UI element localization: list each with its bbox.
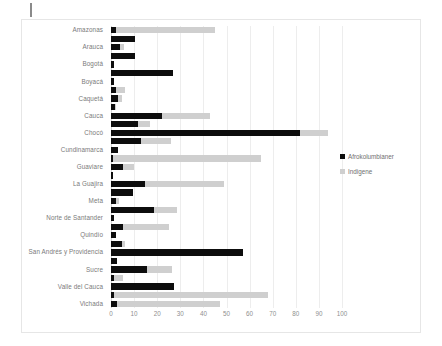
bar-segment-afrokolumbianer bbox=[111, 301, 117, 307]
bar-segment-afrokolumbianer bbox=[111, 61, 114, 67]
bar-row bbox=[111, 26, 342, 35]
x-tick-label-70: 70 bbox=[269, 310, 276, 317]
bar-row bbox=[111, 248, 342, 257]
y-tick-label: Guaviare bbox=[77, 163, 103, 171]
plot-area bbox=[111, 26, 342, 308]
x-tick-label-100: 100 bbox=[337, 310, 348, 317]
bar-row bbox=[111, 69, 342, 78]
bar-segment-afrokolumbianer bbox=[111, 283, 174, 289]
bar-row bbox=[111, 60, 342, 69]
bar-row bbox=[111, 171, 342, 180]
bar-row bbox=[111, 188, 342, 197]
bar-segment-afrokolumbianer bbox=[111, 198, 116, 204]
bar-row bbox=[111, 43, 342, 52]
bar-row bbox=[111, 52, 342, 61]
bar-segment-afrokolumbianer bbox=[111, 95, 118, 101]
bar-row bbox=[111, 282, 342, 291]
x-tick-label-0: 0 bbox=[109, 310, 113, 317]
bar-row bbox=[111, 299, 342, 308]
bar-row bbox=[111, 94, 342, 103]
y-tick-label: Boyacá bbox=[81, 78, 103, 86]
bar-segment-afrokolumbianer bbox=[111, 232, 116, 238]
bar-row bbox=[111, 154, 342, 163]
x-tick-label-50: 50 bbox=[223, 310, 230, 317]
bar-segment-afrokolumbianer bbox=[111, 36, 135, 42]
x-tick-label-90: 90 bbox=[315, 310, 322, 317]
bar-segment-afrokolumbianer bbox=[111, 44, 120, 50]
bar-segment-indigene bbox=[111, 292, 268, 298]
bar-row bbox=[111, 231, 342, 240]
bar-segment-afrokolumbianer bbox=[111, 258, 117, 264]
legend-label-indigene: Indigene bbox=[348, 168, 372, 175]
bar-segment-afrokolumbianer bbox=[111, 224, 123, 230]
y-tick-label: Cundinamarca bbox=[61, 146, 103, 154]
y-tick-label: San Andrés y Providencia bbox=[28, 248, 103, 256]
legend-swatch-indigene bbox=[340, 169, 345, 174]
bar-row bbox=[111, 274, 342, 283]
y-tick-label: Caquetá bbox=[78, 95, 103, 103]
bar-segment-afrokolumbianer bbox=[111, 104, 115, 110]
y-tick-label: Amazonas bbox=[72, 26, 103, 34]
y-tick-label: Valle del Cauca bbox=[58, 283, 103, 291]
bar-row bbox=[111, 205, 342, 214]
bar-row bbox=[111, 129, 342, 138]
bar-segment-afrokolumbianer bbox=[111, 87, 116, 93]
bar-row bbox=[111, 197, 342, 206]
x-axis-ticks: 0102030405060708090100 bbox=[111, 310, 342, 324]
bar-segment-afrokolumbianer bbox=[111, 53, 135, 59]
bar-row bbox=[111, 103, 342, 112]
bar-segment-afrokolumbianer bbox=[111, 181, 145, 187]
legend-label-afrokolumbianer: Afrokolumbianer bbox=[348, 153, 394, 160]
y-tick-label: Vichada bbox=[80, 300, 103, 308]
x-tick-label-30: 30 bbox=[177, 310, 184, 317]
x-tick-label-80: 80 bbox=[292, 310, 299, 317]
bar-row bbox=[111, 265, 342, 274]
y-tick-label: Sucre bbox=[86, 266, 103, 274]
x-tick-label-10: 10 bbox=[131, 310, 138, 317]
bar-segment-afrokolumbianer bbox=[111, 249, 243, 255]
bar-segment-afrokolumbianer bbox=[111, 266, 147, 272]
y-tick-label: Cauca bbox=[84, 112, 103, 120]
y-tick-label: Quindío bbox=[80, 231, 103, 239]
x-tick-label-40: 40 bbox=[200, 310, 207, 317]
bar-row bbox=[111, 111, 342, 120]
bar-row bbox=[111, 291, 342, 300]
bar-row bbox=[111, 223, 342, 232]
legend-item-afrokolumbianer: Afrokolumbianer bbox=[340, 152, 440, 161]
bar-segment-afrokolumbianer bbox=[111, 215, 114, 221]
bar-rows bbox=[111, 26, 342, 308]
bar-segment-afrokolumbianer bbox=[111, 78, 114, 84]
bar-row bbox=[111, 146, 342, 155]
bar-segment-afrokolumbianer bbox=[111, 27, 116, 33]
bar-segment-afrokolumbianer bbox=[111, 147, 118, 153]
y-tick-label: Bogotá bbox=[82, 60, 103, 68]
x-tick-label-20: 20 bbox=[154, 310, 161, 317]
chart-legend: Afrokolumbianer Indigene bbox=[340, 152, 440, 182]
bar-segment-afrokolumbianer bbox=[111, 121, 138, 127]
screenshot-page: AmazonasAraucaBogotáBoyacáCaquetáCaucaCh… bbox=[0, 0, 442, 346]
bar-segment-indigene bbox=[111, 301, 220, 307]
bar-segment-afrokolumbianer bbox=[111, 164, 123, 170]
bar-row bbox=[111, 77, 342, 86]
y-tick-label: Chocó bbox=[84, 129, 103, 137]
bar-segment-afrokolumbianer bbox=[111, 172, 113, 178]
bar-row bbox=[111, 180, 342, 189]
bar-segment-afrokolumbianer bbox=[111, 113, 162, 119]
y-axis-labels: AmazonasAraucaBogotáBoyacáCaquetáCaucaCh… bbox=[22, 26, 108, 308]
y-tick-label: Arauca bbox=[82, 43, 103, 51]
bar-segment-afrokolumbianer bbox=[111, 207, 154, 213]
legend-item-indigene: Indigene bbox=[340, 167, 440, 176]
bar-segment-afrokolumbianer bbox=[111, 130, 300, 136]
y-tick-label: Meta bbox=[89, 197, 103, 205]
bar-segment-afrokolumbianer bbox=[111, 275, 114, 281]
bar-row bbox=[111, 240, 342, 249]
bar-row bbox=[111, 86, 342, 95]
bar-segment-afrokolumbianer bbox=[111, 138, 141, 144]
y-tick-label: Norte de Santander bbox=[46, 214, 103, 222]
bar-row bbox=[111, 163, 342, 172]
bar-row bbox=[111, 35, 342, 44]
page-edge-mark bbox=[30, 3, 32, 17]
bar-segment-afrokolumbianer bbox=[111, 241, 122, 247]
bar-segment-indigene bbox=[111, 27, 215, 33]
bar-segment-indigene bbox=[111, 155, 261, 161]
